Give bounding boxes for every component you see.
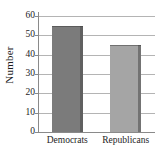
y-axis-tick [35, 35, 39, 36]
y-axis-title-text: Number [3, 46, 15, 83]
x-axis-tick-label: Republicans [102, 136, 149, 146]
y-axis-tick-labels: 0102030405060 [16, 0, 37, 133]
gridline [38, 16, 155, 17]
bar-top-edge [52, 26, 83, 27]
x-axis-tick-labels: DemocratsRepublicans [38, 136, 158, 152]
x-axis-line [38, 132, 155, 133]
y-axis-tick [35, 93, 39, 94]
y-axis-tick-label: 60 [26, 11, 36, 21]
bar-shadow-edge [80, 26, 83, 132]
bar-shadow-edge [138, 45, 141, 132]
x-axis-tick-label: Democrats [47, 136, 88, 146]
y-axis-line [38, 12, 39, 133]
bar-body [52, 26, 83, 132]
y-axis-tick [35, 55, 39, 56]
y-axis-tick [35, 16, 39, 17]
bar-chart: Number 0102030405060 DemocratsRepublican… [0, 0, 163, 162]
y-axis-tick-label: 40 [26, 50, 36, 60]
bar-top-edge [110, 45, 141, 46]
y-axis-tick-label: 30 [26, 69, 36, 79]
y-axis-tick-label: 20 [26, 89, 36, 99]
plot-area [38, 17, 155, 133]
bar [52, 26, 83, 132]
y-axis-tick [35, 113, 39, 114]
y-axis-tick [35, 132, 39, 133]
y-axis-tick [35, 74, 39, 75]
y-axis-tick-label: 50 [26, 31, 36, 41]
y-axis-tick-label: 10 [26, 108, 36, 118]
bar [110, 45, 141, 132]
bar-body [110, 45, 141, 132]
